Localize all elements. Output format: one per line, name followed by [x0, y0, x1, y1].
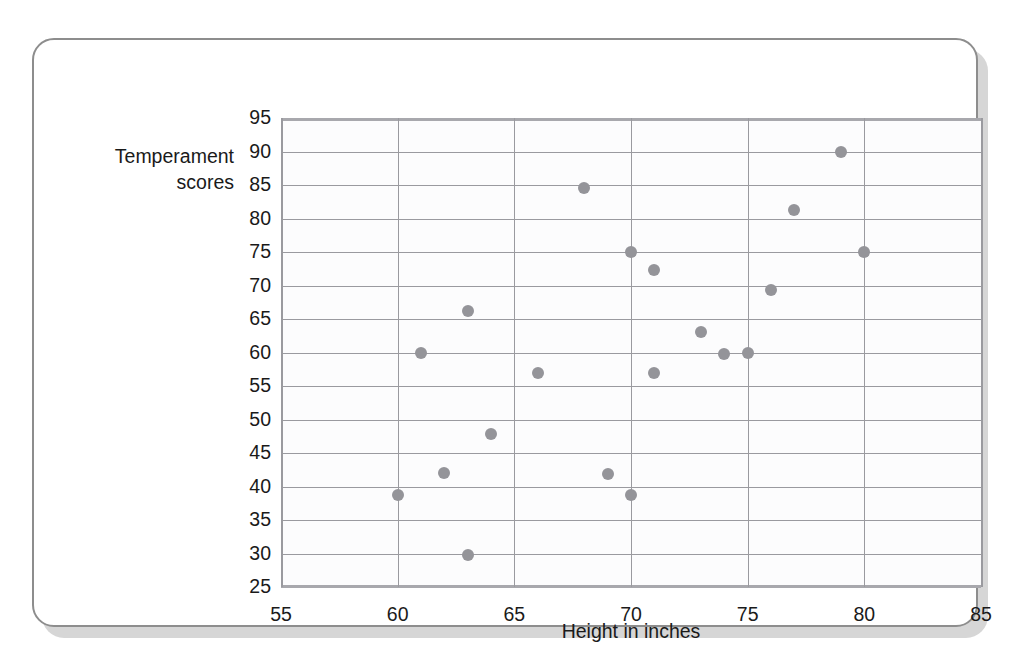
data-point	[835, 146, 847, 158]
x-tick-label-85: 85	[951, 605, 1011, 625]
y-tick-label-85: 85	[217, 175, 271, 195]
data-point	[718, 348, 730, 360]
data-point	[438, 467, 450, 479]
data-point	[532, 367, 544, 379]
y-tick-label-75: 75	[217, 242, 271, 262]
gridline-x-55	[281, 118, 283, 587]
y-tick-label-25: 25	[217, 577, 271, 597]
x-tick-label-60: 60	[368, 605, 428, 625]
data-point	[392, 489, 404, 501]
x-tick-label-65: 65	[484, 605, 544, 625]
x-tick-label-80: 80	[834, 605, 894, 625]
data-point	[648, 264, 660, 276]
y-tick-label-55: 55	[217, 376, 271, 396]
data-point	[485, 428, 497, 440]
data-point	[695, 326, 707, 338]
x-tick-label-55: 55	[251, 605, 311, 625]
data-point	[462, 305, 474, 317]
gridline-x-65	[514, 118, 515, 587]
x-tick-label-70: 70	[601, 605, 661, 625]
gridline-x-85	[981, 118, 983, 587]
data-point	[858, 246, 870, 258]
data-point	[765, 284, 777, 296]
y-tick-label-30: 30	[217, 544, 271, 564]
gridline-x-60	[398, 118, 399, 587]
data-point	[788, 204, 800, 216]
y-tick-label-35: 35	[217, 510, 271, 530]
data-point	[578, 182, 590, 194]
x-tick-label-75: 75	[718, 605, 778, 625]
y-tick-label-65: 65	[217, 309, 271, 329]
data-point	[462, 549, 474, 561]
y-tick-label-50: 50	[217, 410, 271, 430]
y-tick-label-95: 95	[217, 108, 271, 128]
gridline-x-70	[631, 118, 632, 587]
y-tick-label-90: 90	[217, 142, 271, 162]
data-point	[602, 468, 614, 480]
y-tick-label-60: 60	[217, 343, 271, 363]
y-tick-label-70: 70	[217, 276, 271, 296]
y-tick-label-80: 80	[217, 209, 271, 229]
data-point	[625, 489, 637, 501]
data-point	[625, 246, 637, 258]
gridline-x-80	[864, 118, 865, 587]
y-tick-label-40: 40	[217, 477, 271, 497]
y-tick-label-45: 45	[217, 443, 271, 463]
data-point	[742, 347, 754, 359]
data-point	[415, 347, 427, 359]
y-axis-title: Temperament scores	[74, 144, 234, 195]
plot-area	[281, 118, 981, 587]
data-point	[648, 367, 660, 379]
figure-card: Temperament scores Height in inches 2530…	[32, 38, 978, 627]
